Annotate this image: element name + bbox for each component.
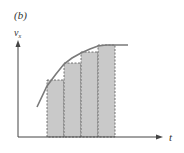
x-axis-arrow-icon xyxy=(156,135,163,140)
rectangle-3 xyxy=(81,52,98,137)
x-axis-label: t xyxy=(169,131,173,143)
rectangle-4 xyxy=(98,45,115,137)
y-axis-arrow-icon xyxy=(16,40,21,47)
y-axis-label: vx xyxy=(14,27,21,39)
rectangle-1 xyxy=(47,80,64,137)
riemann-sum-diagram: (b) vx t xyxy=(0,0,184,153)
rectangle-2 xyxy=(64,63,81,137)
panel-label: (b) xyxy=(14,9,27,22)
rectangles-group xyxy=(47,45,115,137)
